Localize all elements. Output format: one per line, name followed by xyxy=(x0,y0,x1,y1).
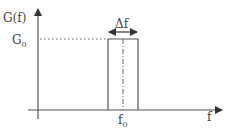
y-axis-label: G(f) xyxy=(3,11,26,25)
x-axis-label: f xyxy=(207,110,213,124)
f0-label: f0 xyxy=(118,113,128,129)
g0-label: G0 xyxy=(12,33,27,49)
spectrum-diagram: G(f) G0 Δf f0 f xyxy=(0,0,234,132)
bandwidth-label: Δf xyxy=(115,17,130,31)
